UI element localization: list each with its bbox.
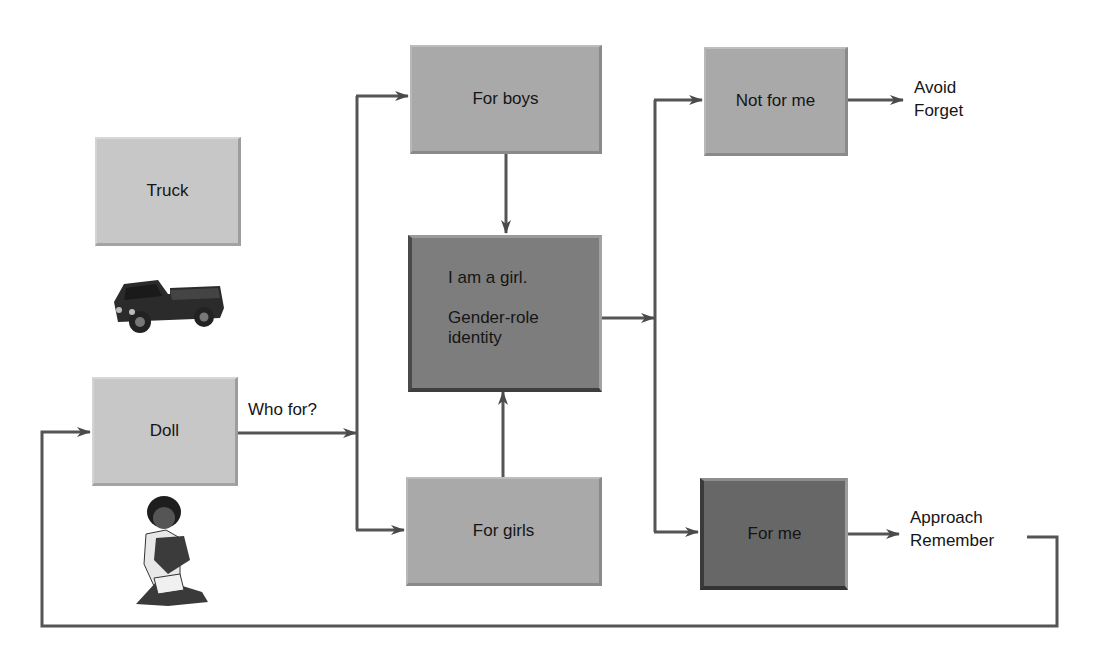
negative-outcome: Avoid Forget: [914, 76, 963, 122]
for-girls-node: For girls: [406, 477, 602, 586]
who-for-label: Who for?: [248, 398, 317, 421]
truck-node: Truck: [95, 137, 241, 246]
for-boys-node: For boys: [410, 45, 602, 154]
positive-outcome: Approach Remember: [910, 506, 994, 552]
approach-label: Approach: [910, 506, 994, 529]
identity-term-line2: identity: [448, 328, 599, 348]
not-for-me-label: Not for me: [736, 91, 815, 111]
girl-with-doll-icon: [128, 494, 212, 608]
remember-label: Remember: [910, 529, 994, 552]
toy-truck-icon: [110, 272, 230, 338]
gender-role-identity-node: I am a girl. Gender-role identity: [408, 235, 602, 392]
not-for-me-node: Not for me: [704, 47, 848, 156]
doll-node: Doll: [92, 377, 238, 486]
avoid-label: Avoid: [914, 76, 963, 99]
for-girls-label: For girls: [473, 521, 534, 541]
for-me-label: For me: [748, 524, 802, 544]
for-me-node: For me: [700, 478, 848, 590]
truck-label: Truck: [147, 181, 189, 201]
identity-statement: I am a girl.: [448, 268, 599, 288]
identity-term-line1: Gender-role: [448, 308, 599, 328]
doll-label: Doll: [150, 421, 179, 441]
for-boys-label: For boys: [472, 89, 538, 109]
forget-label: Forget: [914, 99, 963, 122]
